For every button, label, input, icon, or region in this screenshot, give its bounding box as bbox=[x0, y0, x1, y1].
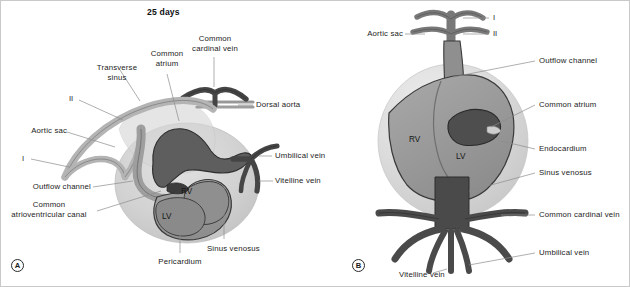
label-common-cardinal-vein-a: Common cardinal vein bbox=[179, 34, 251, 53]
label-umbilical-vein-a: Umbilical vein bbox=[275, 151, 325, 161]
label-aortic-sac-a: Aortic sac bbox=[11, 126, 67, 136]
interventricular-groove-shape bbox=[434, 81, 459, 189]
ventricle-myocardium-shape bbox=[154, 180, 232, 240]
common-atrium-shape bbox=[153, 129, 251, 187]
common-atrium-shape-b bbox=[448, 109, 501, 145]
label-pericardium-a: Pericardium bbox=[139, 257, 221, 267]
panel-marker-a: A bbox=[11, 259, 24, 272]
pericardium-shape-b bbox=[378, 64, 528, 218]
label-arch-two-b: II bbox=[493, 29, 497, 38]
panel-b-leader-lines bbox=[405, 18, 535, 273]
label-vitelline-vein-b: Vitelline vein bbox=[399, 270, 445, 280]
figure-title: 25 days bbox=[147, 7, 180, 17]
outflow-channel-shape bbox=[137, 129, 177, 198]
label-outflow-channel-a: Outflow channel bbox=[9, 182, 91, 192]
label-endocardium-b: Endocardium bbox=[539, 144, 587, 154]
panel-a-leader-lines bbox=[31, 57, 273, 253]
label-common-atrioventricular-canal-a: Common atrioventricular canal bbox=[3, 200, 95, 219]
label-arch-two-a: II bbox=[69, 94, 73, 103]
sinus-venosus-vein-trunk-shape bbox=[233, 146, 277, 191]
pericardium-shape bbox=[115, 123, 259, 243]
vein-outline-accents bbox=[379, 212, 525, 219]
outflow-channel-shape-b bbox=[431, 41, 464, 151]
label-sinus-venosus-a: Sinus venosus bbox=[207, 244, 260, 254]
label-umbilical-vein-b: Umbilical vein bbox=[539, 248, 589, 258]
panel-marker-b: B bbox=[352, 259, 365, 272]
label-left-ventricle-b: LV bbox=[456, 152, 465, 161]
label-dorsal-aorta-a: Dorsal aorta bbox=[256, 100, 300, 110]
label-common-atrium-b: Common atrium bbox=[539, 100, 597, 110]
aortic-sac-arches-shape bbox=[413, 13, 487, 45]
endocardium-shape bbox=[487, 126, 501, 134]
label-vitelline-vein-a: Vitelline vein bbox=[275, 176, 321, 186]
label-sinus-venosus-b: Sinus venosus bbox=[539, 168, 592, 178]
label-outflow-channel-b: Outflow channel bbox=[539, 56, 597, 66]
sinus-venosus-shape-b bbox=[435, 177, 469, 229]
label-right-ventricle-a: RV bbox=[181, 187, 192, 196]
common-cardinal-vein-shape-b bbox=[379, 212, 525, 259]
diagram-artwork bbox=[1, 1, 630, 287]
panel-a-artwork bbox=[31, 57, 277, 253]
label-left-ventricle-a: LV bbox=[162, 212, 171, 221]
ventricle-myocardium-shape-b bbox=[389, 75, 514, 202]
panel-b-artwork bbox=[378, 13, 535, 273]
dorsal-aorta-shape bbox=[197, 102, 253, 107]
common-cardinal-vein-shape bbox=[183, 90, 246, 105]
embryonic-heart-development-figure: 25 days Transverse sinus Common atrium C… bbox=[0, 0, 630, 287]
vitelline-umbilical-veins-shape bbox=[429, 231, 469, 271]
transverse-sinus-shape bbox=[119, 101, 215, 173]
label-right-ventricle-b: RV bbox=[409, 135, 420, 144]
label-arch-one-b: I bbox=[493, 13, 495, 22]
aortic-arch-vessels-shape bbox=[65, 100, 213, 177]
label-common-cardinal-vein-b: Common cardinal vein bbox=[539, 210, 620, 220]
label-aortic-sac-b: Aortic sac bbox=[345, 29, 403, 39]
label-arch-one-a: I bbox=[22, 154, 24, 163]
